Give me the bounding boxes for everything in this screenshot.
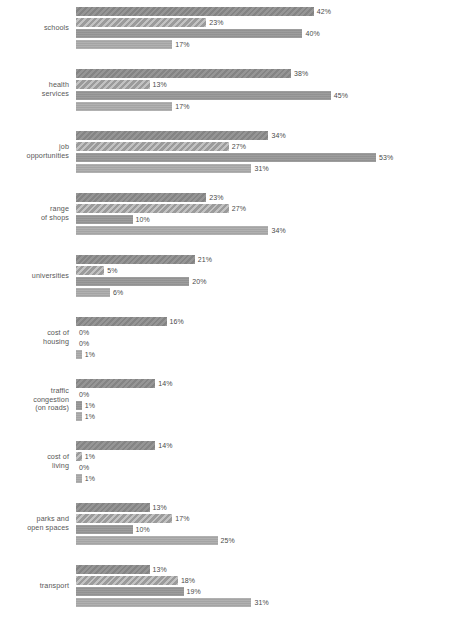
bar-value-label: 0%: [76, 328, 89, 337]
bar-group-bars: 21%5%20%6%: [76, 254, 449, 298]
bar-value-label: 40%: [302, 29, 319, 38]
bar-group: health services38%13%45%17%: [0, 68, 449, 112]
bar-group-bars: 14%1%0%1%: [76, 440, 449, 484]
bar-row: 17%: [76, 39, 449, 50]
bar-value-label: 13%: [150, 565, 167, 574]
bar-row: 14%: [76, 440, 449, 451]
horizontal-grouped-bar-chart: schools42%23%40%17%health services38%13%…: [0, 0, 449, 618]
bar-value-label: 0%: [76, 463, 89, 472]
category-label: universities: [0, 272, 76, 281]
bar-value-label: 0%: [76, 390, 89, 399]
bar-series-1: [76, 565, 150, 574]
category-label: job opportunities: [0, 143, 76, 160]
bar-series-3: [76, 277, 189, 286]
group-spacer: [0, 298, 449, 316]
bar-value-label: 31%: [251, 164, 268, 173]
bar-group: cost of living14%1%0%1%: [0, 440, 449, 484]
bar-series-1: [76, 69, 291, 78]
bar-series-2: [76, 266, 104, 275]
bar-row: 0%: [76, 338, 449, 349]
bar-value-label: 42%: [314, 7, 331, 16]
bar-group: range of shops23%27%10%34%: [0, 192, 449, 236]
group-spacer: [0, 236, 449, 254]
bar-series-1: [76, 255, 195, 264]
bar-group-bars: 42%23%40%17%: [76, 6, 449, 50]
bar-group: cost of housing16%0%0%1%: [0, 316, 449, 360]
bar-value-label: 21%: [195, 255, 212, 264]
bar-series-2: [76, 514, 172, 523]
bar-row: 0%: [76, 462, 449, 473]
bar-row: 34%: [76, 225, 449, 236]
bar-row: 16%: [76, 316, 449, 327]
bar-row: 0%: [76, 327, 449, 338]
bar-value-label: 0%: [76, 339, 89, 348]
bar-group-bars: 16%0%0%1%: [76, 316, 449, 360]
category-label: transport: [0, 582, 76, 591]
bar-group-bars: 13%17%10%25%: [76, 502, 449, 546]
bar-series-1: [76, 131, 268, 140]
bar-value-label: 20%: [189, 277, 206, 286]
bar-value-label: 16%: [167, 317, 184, 326]
bar-row: 14%: [76, 378, 449, 389]
bar-row: 31%: [76, 163, 449, 174]
bar-row: 10%: [76, 214, 449, 225]
bar-group: schools42%23%40%17%: [0, 6, 449, 50]
bar-series-1: [76, 441, 155, 450]
group-spacer: [0, 112, 449, 130]
bar-series-3: [76, 153, 376, 162]
category-label: cost of housing: [0, 329, 76, 346]
group-spacer: [0, 50, 449, 68]
bar-series-2: [76, 142, 229, 151]
group-spacer: [0, 174, 449, 192]
bar-row: 31%: [76, 597, 449, 608]
bar-series-1: [76, 193, 206, 202]
bar-row: 1%: [76, 400, 449, 411]
bar-value-label: 23%: [206, 193, 223, 202]
bar-row: 45%: [76, 90, 449, 101]
bar-value-label: 6%: [110, 288, 123, 297]
bar-series-3: [76, 587, 184, 596]
bar-value-label: 23%: [206, 18, 223, 27]
bar-series-4: [76, 102, 172, 111]
bar-row: 23%: [76, 192, 449, 203]
bar-value-label: 14%: [155, 379, 172, 388]
category-label: traffic congestion (on roads): [0, 387, 76, 413]
bar-row: 18%: [76, 575, 449, 586]
bar-value-label: 13%: [150, 503, 167, 512]
category-label: health services: [0, 81, 76, 98]
bar-row: 1%: [76, 473, 449, 484]
bar-value-label: 1%: [82, 452, 95, 461]
bar-series-2: [76, 576, 178, 585]
bar-row: 1%: [76, 411, 449, 422]
bar-value-label: 34%: [268, 131, 285, 140]
category-label: schools: [0, 24, 76, 33]
bar-series-1: [76, 379, 155, 388]
bar-row: 42%: [76, 6, 449, 17]
bar-value-label: 38%: [291, 69, 308, 78]
bar-row: 10%: [76, 524, 449, 535]
bar-value-label: 31%: [251, 598, 268, 607]
bar-series-2: [76, 80, 150, 89]
bar-row: 21%: [76, 254, 449, 265]
bar-row: 25%: [76, 535, 449, 546]
bar-group: parks and open spaces13%17%10%25%: [0, 502, 449, 546]
bar-group: job opportunities34%27%53%31%: [0, 130, 449, 174]
bar-row: 6%: [76, 287, 449, 298]
bar-group: transport13%18%19%31%: [0, 564, 449, 608]
category-label: cost of living: [0, 453, 76, 470]
bar-value-label: 19%: [184, 587, 201, 596]
bar-row: 27%: [76, 141, 449, 152]
bar-series-4: [76, 536, 218, 545]
bar-row: 34%: [76, 130, 449, 141]
bar-series-3: [76, 29, 302, 38]
group-spacer: [0, 546, 449, 564]
bar-row: 40%: [76, 28, 449, 39]
bar-value-label: 25%: [218, 536, 235, 545]
bar-row: 20%: [76, 276, 449, 287]
bar-value-label: 27%: [229, 142, 246, 151]
bar-row: 38%: [76, 68, 449, 79]
bar-series-1: [76, 503, 150, 512]
bar-row: 13%: [76, 502, 449, 513]
bar-series-4: [76, 226, 268, 235]
bar-value-label: 1%: [82, 401, 95, 410]
